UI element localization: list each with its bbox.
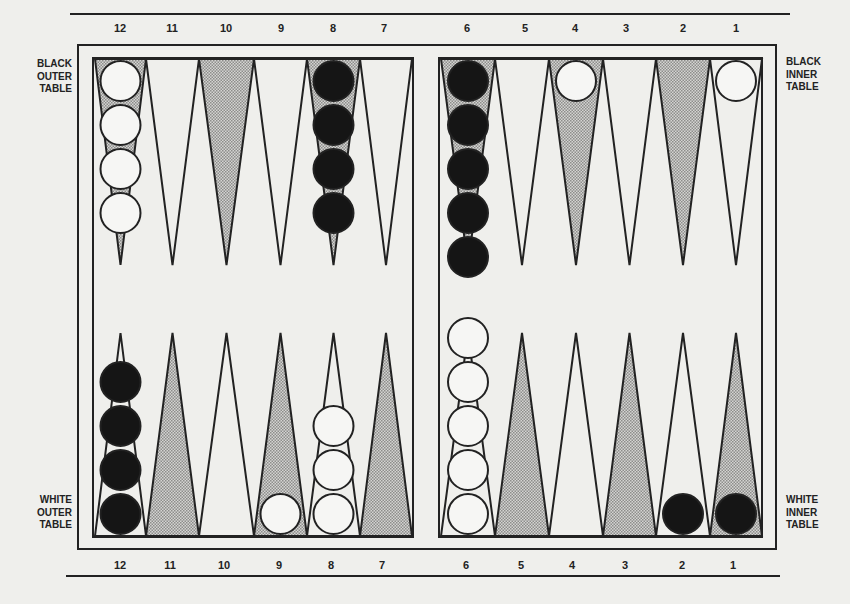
white-checker[interactable] [314,406,354,446]
point-bottom-5[interactable] [495,333,549,536]
black-checker[interactable] [101,406,141,446]
black-checker[interactable] [101,362,141,402]
point-top-11[interactable] [146,59,199,265]
black-checker[interactable] [448,193,488,233]
black-checker[interactable] [716,494,756,534]
point-bottom-3[interactable] [603,333,656,536]
point-top-3[interactable] [603,59,656,265]
point-bottom-11[interactable] [146,333,199,536]
black-checker[interactable] [314,105,354,145]
point-top-9[interactable] [254,59,307,265]
black-checker[interactable] [448,105,488,145]
backgammon-board [0,0,850,604]
black-checker[interactable] [448,149,488,189]
white-checker[interactable] [314,450,354,490]
point-bottom-7[interactable] [360,333,412,536]
checkers-layer [101,61,757,534]
white-checker[interactable] [716,61,756,101]
black-checker[interactable] [314,193,354,233]
white-checker[interactable] [448,318,488,358]
left-half-board [93,58,413,537]
black-checker[interactable] [663,494,703,534]
black-checker[interactable] [101,450,141,490]
black-checker[interactable] [448,237,488,277]
point-top-10[interactable] [199,59,254,265]
point-top-7[interactable] [360,59,412,265]
black-checker[interactable] [448,61,488,101]
black-checker[interactable] [314,149,354,189]
white-checker[interactable] [556,61,596,101]
point-bottom-4[interactable] [549,333,603,536]
white-checker[interactable] [448,362,488,402]
point-bottom-10[interactable] [199,333,254,536]
points-layer [95,59,762,536]
point-top-2[interactable] [656,59,710,265]
white-checker[interactable] [314,494,354,534]
white-checker[interactable] [448,494,488,534]
white-checker[interactable] [101,61,141,101]
white-checker[interactable] [101,193,141,233]
black-checker[interactable] [101,494,141,534]
white-checker[interactable] [448,450,488,490]
white-checker[interactable] [261,494,301,534]
point-top-5[interactable] [495,59,549,265]
black-checker[interactable] [314,61,354,101]
white-checker[interactable] [448,406,488,446]
white-checker[interactable] [101,149,141,189]
white-checker[interactable] [101,105,141,145]
